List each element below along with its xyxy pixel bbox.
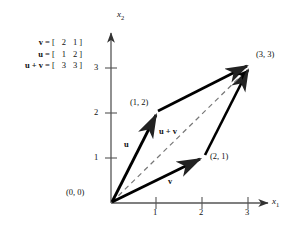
equation-table: v = [ 2 1 ] u = [ 1 2 ] u + v = [ 3 3 [24,37,83,72]
y-tick-label-2: 2 [94,108,98,117]
y-axis-label-sub: 2 [121,14,124,21]
point-label-v-tip: (2, 1) [210,152,228,161]
y-tick-label-3: 3 [94,63,98,72]
vector-addition-figure: v = [ 2 1 ] u = [ 1 2 ] u + v = [ 3 3 [0,0,304,238]
point-label-u-tip: (1, 2) [130,98,148,107]
equation-row: u = [ 1 2 ] [24,49,83,61]
equation-equals: = [44,60,51,72]
x-tick-label-1: 1 [153,208,157,217]
equation-lhs: u [24,49,44,61]
vector-u [112,115,156,202]
edge-u-to-sum [158,66,247,111]
equation-value-a: 3 [56,60,67,72]
equation-value-a: 1 [56,49,67,61]
equation-equals: = [44,37,51,49]
equation-value-a: 2 [56,37,67,49]
x-tick-label-3: 3 [245,208,249,217]
y-tick-label-1: 1 [94,153,98,162]
equation-equals: = [44,49,51,61]
x-axis-label: x1 [272,197,279,208]
equation-lhs: u + v [24,60,44,72]
figure-canvas [0,0,304,238]
equation-block: v = [ 2 1 ] u = [ 1 2 ] u + v = [ 3 3 [24,37,83,72]
point-label-sum-tip: (3, 3) [256,50,274,59]
equation-bracket-close: ] [78,37,83,49]
vector-label-sum: u + v [159,127,177,136]
vector-label-v: v [168,177,172,186]
equation-row: v = [ 2 1 ] [24,37,83,49]
equation-bracket-close: ] [78,49,83,61]
origin-point-label: (0, 0) [66,188,84,197]
axis-lines [111,33,268,203]
vector-label-u: u [124,140,129,149]
vector-v [112,159,200,202]
x-axis-label-sub: 1 [276,201,279,208]
equation-value-b: 1 [67,37,78,49]
equation-bracket-close: ] [78,60,83,72]
x-tick-label-2: 2 [199,208,203,217]
equation-value-b: 3 [67,60,78,72]
equation-row: u + v = [ 3 3 ] [24,60,83,72]
y-axis-label: x2 [117,10,124,21]
resultant-vector-dashed [112,71,246,202]
equation-value-b: 2 [67,49,78,61]
equation-lhs: v [24,37,44,49]
parallelogram-edges [158,66,248,155]
